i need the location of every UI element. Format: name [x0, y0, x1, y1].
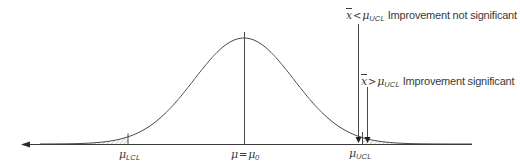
annotation-significant: x>μUCLImprovement significant [361, 75, 514, 91]
annotation-not-significant: x<μUCLImprovement not significant [346, 9, 517, 25]
arrow-down-icon [356, 137, 362, 143]
lcl-label: μLCL [119, 148, 140, 164]
axis-arrow-left-icon [21, 142, 30, 148]
ucl-label: μUCL [349, 147, 372, 163]
mean-label: μ=μ0 [231, 148, 259, 164]
bell-curve [40, 38, 472, 144]
